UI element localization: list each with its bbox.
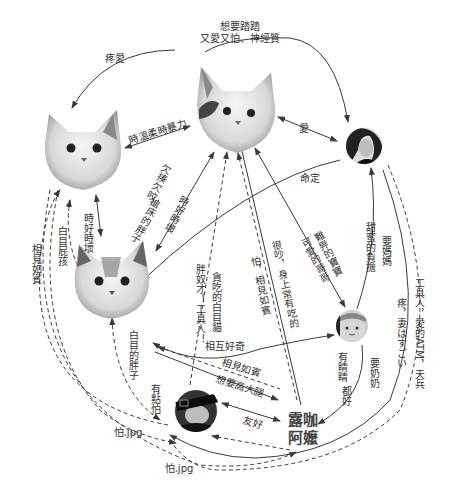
label-tool-man-atm: 工具人，愛的ATM，天兵 bbox=[414, 278, 425, 390]
edge-top-baby bbox=[255, 148, 345, 307]
relationship-diagram: 想要踏踏 又愛又怕、神經質 疼愛 時溫柔時暴力 愛 命定 時好時壞 欠揍欠咬、 … bbox=[0, 0, 452, 501]
label-all-good: 都好 bbox=[341, 386, 352, 407]
label-want-grandma: 要奶奶 bbox=[369, 358, 380, 389]
label-friendly: 友好 bbox=[242, 413, 265, 431]
label-gentle-violent: 時溫柔時暴力 bbox=[127, 116, 188, 146]
label-scared-jpg-2: 怕.jpg bbox=[165, 462, 194, 474]
edge-left-mid-mutual bbox=[96, 195, 101, 236]
label-good-bad-2: 時好時壞 bbox=[162, 193, 191, 234]
label-want-to-step: 想要踏踏 bbox=[220, 20, 260, 32]
label-noisy-food: 很吵，身上常有吃的 bbox=[269, 238, 299, 330]
woman-photo bbox=[346, 128, 384, 164]
cat-left-photo bbox=[45, 110, 121, 190]
baby-photo bbox=[336, 310, 368, 343]
label-mutual-curiosity: 相互好奇 bbox=[205, 340, 245, 352]
label-love: 愛 bbox=[299, 122, 309, 134]
label-has-eyes: 有睛睛 bbox=[337, 351, 348, 382]
label-annoying-brat: 白目屁孩 bbox=[57, 225, 68, 267]
label-annoying-fatty: 白目的胖子 bbox=[128, 329, 139, 380]
man-photo bbox=[173, 386, 219, 432]
node-lukaamei-line2: 阿嬤 bbox=[288, 429, 318, 447]
label-doting: 疼愛 bbox=[105, 52, 125, 64]
label-love-and-fear: 又愛又怕、神經質 bbox=[200, 32, 280, 44]
label-sometimes-good-bad: 時好時壞 bbox=[83, 213, 94, 254]
edge-amei-to-man-dash bbox=[212, 436, 290, 450]
label-fat-servant: 胖奴才！工具人！ bbox=[195, 264, 206, 344]
node-lukaamei-line1: 露咖 bbox=[288, 411, 318, 429]
labels: 想要踏踏 又愛又怕、神經質 疼愛 時溫柔時暴力 愛 命定 時好時壞 欠揍欠咬、 … bbox=[31, 20, 425, 474]
label-wife-sugoi: 疼，妻はすごい bbox=[396, 297, 407, 368]
label-want-mom: 要媽媽 bbox=[381, 236, 392, 267]
label-sweet-burden: 甜蜜的負擔 bbox=[365, 221, 376, 273]
label-scared-jpg-1: 怕.jpg bbox=[114, 426, 143, 438]
label-greedy-cat: 貪吃的白目貓 bbox=[211, 271, 222, 333]
cat-top-photo bbox=[197, 67, 275, 153]
label-destiny: 命定 bbox=[300, 172, 320, 184]
label-bit-scared: 有點怕 bbox=[150, 383, 161, 415]
label-polite-distance: 相見如賓 bbox=[31, 243, 42, 285]
